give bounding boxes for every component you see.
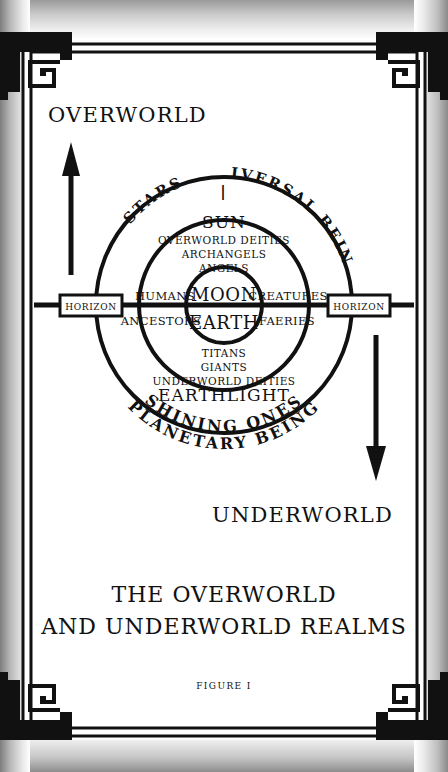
cosmology-diagram: HORIZON HORIZON OVERWORLD UNDERWORLD STA… xyxy=(0,0,448,772)
middle-ring-sun: SUN xyxy=(202,212,246,232)
outer-ring-arc-universal-beings: UNIVERSAL BEINGS xyxy=(0,0,357,268)
horizon-left-text: HORIZON xyxy=(65,302,116,312)
outer-ring-arc-divider: | xyxy=(220,182,228,200)
inner-circle-moon: MOON xyxy=(191,284,257,305)
middle-ring-titans: TITANS xyxy=(202,347,247,359)
underworld-label: UNDERWORLD xyxy=(212,503,393,527)
middle-ring-earthlight: EARTHLIGHT xyxy=(158,385,290,405)
middle-ring-faeries: FAERIES xyxy=(259,314,315,328)
horizon-label-left: HORIZON xyxy=(60,295,122,316)
overworld-label: OVERWORLD xyxy=(48,103,207,127)
figure-page: HORIZON HORIZON OVERWORLD UNDERWORLD STA… xyxy=(0,0,448,772)
middle-ring-creatures: CREATURES xyxy=(248,289,327,303)
middle-ring-archangels: ARCHANGELS xyxy=(181,248,267,260)
figure-title-line-1: THE OVERWORLD xyxy=(111,582,336,607)
middle-ring-giants: GIANTS xyxy=(201,361,248,373)
arrow-down-icon xyxy=(366,335,386,481)
outer-ring-arc-stars: STARS xyxy=(120,173,186,228)
inner-circle-earth: EARTH xyxy=(189,312,259,333)
arrow-up-icon xyxy=(62,142,80,275)
figure-caption: FIGURE I xyxy=(196,681,252,691)
horizon-label-right: HORIZON xyxy=(328,295,390,316)
middle-ring-angels: ANGELS xyxy=(198,262,249,274)
figure-title-line-2: AND UNDERWORLD REALMS xyxy=(40,614,407,639)
horizon-right-text: HORIZON xyxy=(333,302,384,312)
middle-ring-overworld-deities: OVERWORLD DEITIES xyxy=(158,234,290,246)
middle-ring-humans: HUMANS xyxy=(135,289,195,303)
